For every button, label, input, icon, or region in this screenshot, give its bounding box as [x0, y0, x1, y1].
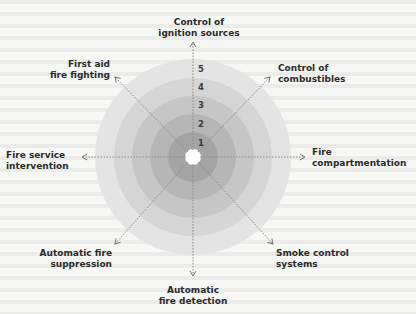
label-fire-compartmentation: Fire compartmentation — [312, 147, 406, 169]
ring-label-4: 4 — [198, 82, 204, 92]
label-line: suppression — [20, 259, 112, 270]
label-line: Smoke control — [276, 248, 349, 259]
ring-label-1: 1 — [198, 138, 204, 148]
label-line: Control of — [278, 63, 345, 74]
label-automatic-fire-suppression: Automatic fire suppression — [20, 248, 112, 270]
label-line: First aid — [20, 59, 110, 70]
ring-label-3: 3 — [198, 100, 204, 110]
label-line: fire fighting — [20, 70, 110, 81]
label-line: ignition sources — [134, 28, 264, 39]
label-line: Fire — [312, 147, 406, 158]
label-line: compartmentation — [312, 158, 406, 169]
label-line: fire detection — [143, 296, 243, 307]
label-line: Fire service — [6, 150, 69, 161]
label-line: Control of — [134, 17, 264, 28]
label-line: Automatic fire — [20, 248, 112, 259]
ring-label-5: 5 — [198, 64, 204, 74]
label-first-aid-fire-fighting: First aid fire fighting — [20, 59, 110, 81]
ring-label-2: 2 — [198, 119, 204, 129]
label-control-of-ignition-sources: Control of ignition sources — [134, 17, 264, 39]
label-line: Automatic — [143, 285, 243, 296]
label-control-of-combustibles: Control of combustibles — [278, 63, 345, 85]
label-automatic-fire-detection: Automatic fire detection — [143, 285, 243, 307]
label-line: systems — [276, 259, 349, 270]
label-line: combustibles — [278, 74, 345, 85]
label-fire-service-intervention: Fire service intervention — [6, 150, 69, 172]
label-smoke-control-systems: Smoke control systems — [276, 248, 349, 270]
label-line: intervention — [6, 161, 69, 172]
